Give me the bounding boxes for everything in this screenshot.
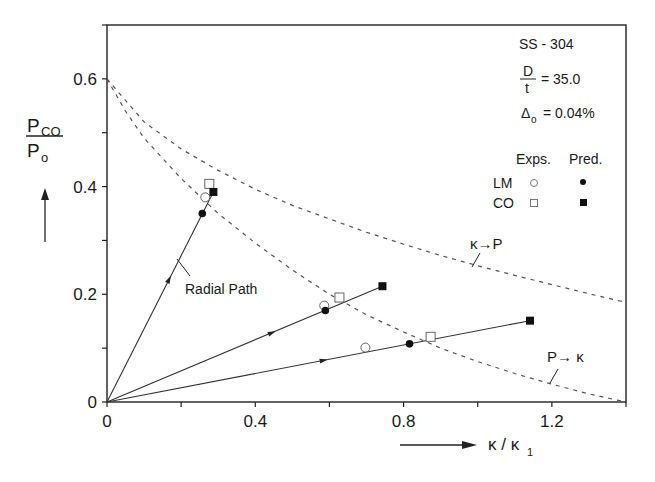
radial-paths [107, 192, 530, 402]
legend-open-square-icon [531, 200, 538, 207]
x-tick-label: 1.2 [540, 412, 564, 431]
co-exp-marker [426, 332, 435, 341]
co-exp-marker [335, 293, 344, 302]
chart-figure: 00.40.81.200.20.40.6 P CO P o κ / κ 1 SS… [0, 0, 655, 482]
legend-filled-square-icon [580, 199, 587, 206]
path-direction-arrow-icon [319, 357, 328, 363]
x-axis-arrow-icon [462, 441, 477, 449]
co-pred-marker [526, 317, 534, 325]
co-exp-marker [205, 179, 214, 188]
x-label-sub: 1 [527, 446, 533, 458]
y-label-denominator: P [27, 140, 40, 161]
x-tick-label: 0.4 [243, 412, 267, 431]
label-kappa-to-p: κ→P [470, 235, 503, 252]
path-direction-arrow-icon [267, 329, 276, 337]
legend-open-circle-icon [531, 180, 538, 187]
legend-header-pred: Pred. [569, 151, 602, 167]
legend-label-co: CO [493, 195, 514, 211]
label-kappa-to-p-leader [472, 253, 480, 267]
lm-pred-marker [198, 210, 206, 218]
label-radial-path: Radial Path [185, 281, 257, 297]
dt-numerator: D [523, 63, 533, 79]
label-p-to-kappa: P→ κ [547, 348, 584, 365]
y-label-denominator-sub: o [41, 150, 48, 165]
x-tick-label: 0.8 [392, 412, 416, 431]
radial-path-line [107, 321, 530, 402]
label-radial-path-leader [177, 259, 190, 276]
y-tick-label: 0.2 [73, 285, 97, 304]
legend: Exps. Pred. LM CO [493, 151, 602, 211]
y-tick-label: 0.6 [73, 70, 97, 89]
y-tick-label: 0.4 [73, 178, 97, 197]
lm-exp-marker [201, 193, 210, 202]
dt-denominator: t [525, 80, 529, 96]
data-markers [198, 179, 534, 352]
legend-header-exps: Exps. [516, 151, 551, 167]
path-direction-arrow-icon [165, 275, 173, 284]
lm-pred-marker [322, 307, 330, 315]
arrowhead [267, 329, 276, 337]
radial-path-line [107, 286, 382, 402]
delta-subscript: o [531, 114, 537, 125]
co-pred-marker [378, 282, 386, 290]
y-axis-arrow-icon [41, 188, 49, 200]
co-pred-marker [209, 188, 217, 196]
parameter-annotations: SS - 304 D t = 35.0 Δ o = 0.04% [519, 36, 595, 125]
delta-value: = 0.04% [543, 105, 595, 121]
lm-exp-marker [361, 343, 370, 352]
legend-label-lm: LM [493, 175, 512, 191]
y-tick-label: 0 [88, 393, 97, 412]
curve-labels: κ→P P→ κ Radial Path [177, 235, 584, 383]
x-label-kappa: κ / κ [488, 435, 520, 454]
lm-pred-marker [406, 340, 414, 348]
delta-symbol: Δ [521, 105, 530, 121]
y-label-numerator: P [27, 115, 40, 136]
label-p-to-kappa-leader [550, 369, 558, 383]
x-tick-label: 0 [102, 412, 111, 431]
y-axis-label: P CO P o [26, 115, 63, 242]
material-label: SS - 304 [519, 36, 574, 52]
arrowhead [319, 357, 328, 363]
dt-value: = 35.0 [541, 71, 581, 87]
arrowhead [165, 275, 173, 284]
legend-filled-circle-icon [580, 179, 586, 185]
x-axis-label: κ / κ 1 [400, 435, 533, 458]
y-label-numerator-sub: CO [41, 124, 61, 139]
